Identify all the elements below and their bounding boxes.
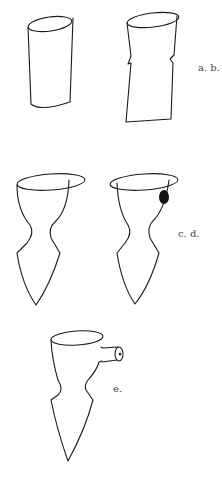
figure-b-notched-cylinder xyxy=(126,10,180,122)
label-a-b: a. b. xyxy=(198,62,220,73)
figure-c-waisted-vessel xyxy=(17,172,86,305)
figure-e-spouted-vessel xyxy=(51,329,123,461)
label-c-d: c. d. xyxy=(178,228,200,239)
figure-d-hole-dot xyxy=(159,190,169,204)
figure-d-waisted-vessel-hole xyxy=(110,172,179,304)
figure-a-cylinder xyxy=(27,14,73,108)
label-e: e. xyxy=(113,383,122,394)
drawings-canvas xyxy=(0,0,222,481)
